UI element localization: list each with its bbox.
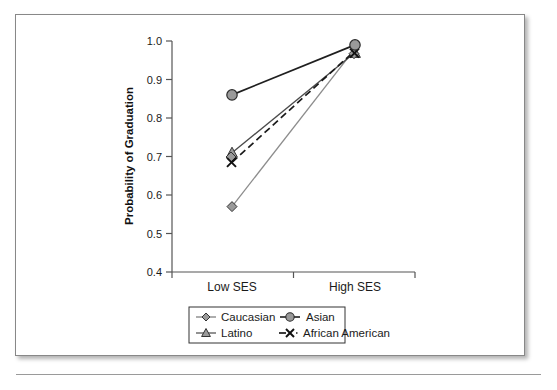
legend-label-african-american: African American	[303, 327, 390, 339]
figure-root: 1.0 0.9 0.8 0.7 0.6 0.5 0.4 Probability …	[0, 0, 557, 390]
legend-label-caucasian: Caucasian	[221, 311, 275, 323]
y-tick-label-3: 0.8	[147, 112, 162, 124]
y-tick-label-2: 0.9	[147, 74, 162, 86]
x-category-label-high-ses: High SES	[329, 280, 381, 294]
line-chart: 1.0 0.9 0.8 0.7 0.6 0.5 0.4 Probability …	[0, 0, 557, 390]
legend-label-latino: Latino	[221, 327, 252, 339]
series-line-caucasian	[232, 49, 355, 207]
legend-entry-asian: Asian	[280, 311, 335, 323]
legend-marker-circle-icon	[286, 313, 294, 321]
series-line-latino	[232, 53, 355, 153]
legend-label-asian: Asian	[306, 311, 335, 323]
y-tick-label-7: 0.4	[147, 266, 162, 278]
x-axis-ticks	[172, 272, 415, 278]
y-tick-label-5: 0.6	[147, 189, 162, 201]
marker-asian-low-ses	[227, 90, 237, 100]
y-tick-label-4: 0.7	[147, 151, 162, 163]
marker-asian-high-ses	[350, 40, 360, 50]
y-axis-title: Probability of Graduation	[123, 87, 135, 225]
y-tick-label-6: 0.5	[147, 228, 162, 240]
x-category-label-low-ses: Low SES	[207, 280, 256, 294]
series-line-asian	[232, 45, 355, 95]
y-tick-label-1: 1.0	[147, 35, 162, 47]
y-axis-ticks	[166, 41, 172, 272]
